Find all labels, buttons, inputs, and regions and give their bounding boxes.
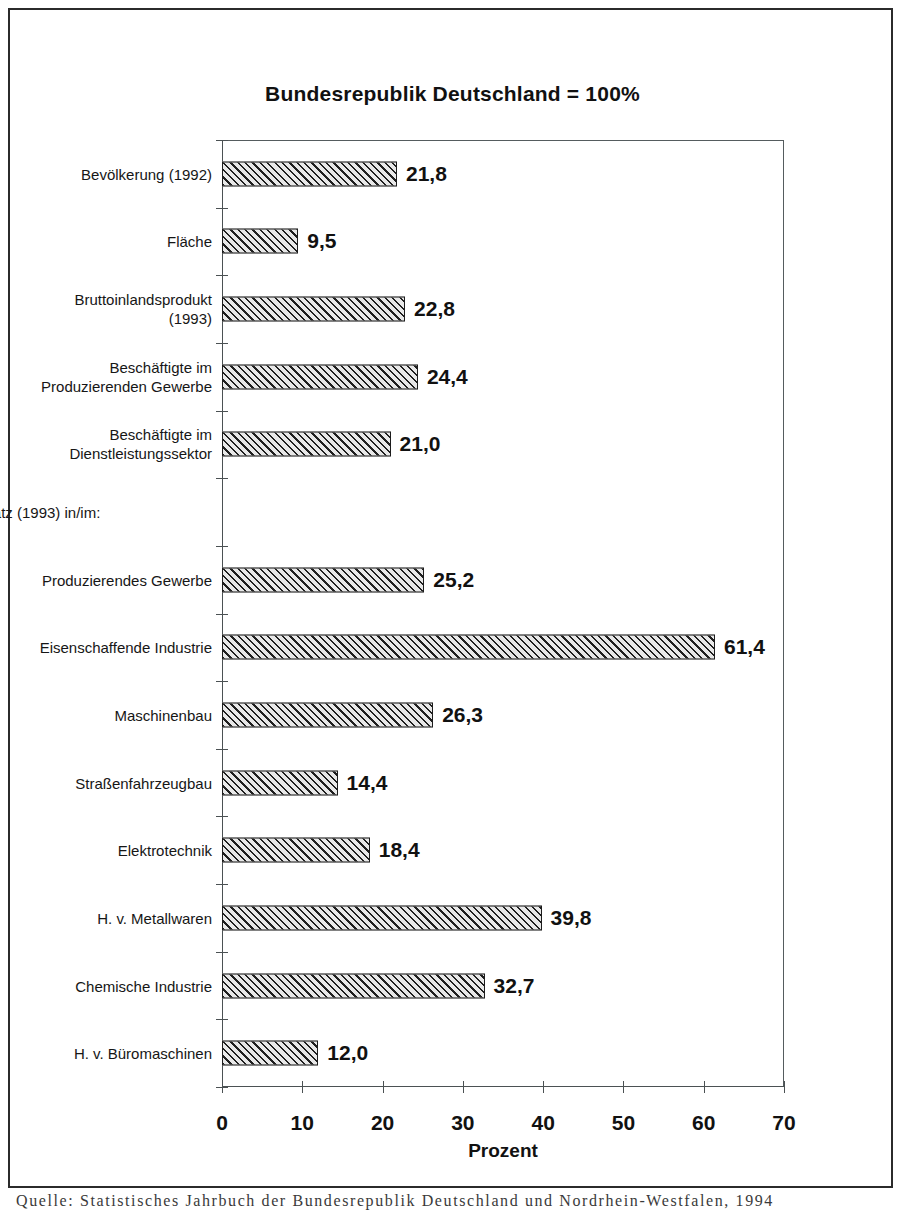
bar-value-label: 9,5 xyxy=(298,229,336,253)
bar xyxy=(222,297,405,322)
x-axis-tick xyxy=(302,1081,303,1093)
y-axis-tick xyxy=(216,884,228,885)
bar xyxy=(222,567,424,592)
bar-row: Produzierendes Gewerbe25,2 xyxy=(222,546,784,614)
bar xyxy=(222,1041,318,1066)
x-axis-title: Prozent xyxy=(222,1140,784,1162)
bar-value-label: 26,3 xyxy=(433,703,483,727)
category-label: Eisenschaffende Industrie xyxy=(0,638,212,657)
bar-value-label: 22,8 xyxy=(405,297,455,321)
bar xyxy=(222,702,433,727)
bar-row: H. v. Metallwaren39,8 xyxy=(222,884,784,952)
category-label: Bevölkerung (1992) xyxy=(0,164,212,183)
plot-area: Bevölkerung (1992)21,8Fläche9,5Bruttoinl… xyxy=(222,140,784,1087)
category-label: Bruttoinlandsprodukt (1993) xyxy=(0,290,212,328)
y-axis-tick xyxy=(216,952,228,953)
category-label: Produzierendes Gewerbe xyxy=(0,570,212,589)
chart-title: Bundesrepublik Deutschland = 100% xyxy=(10,82,895,106)
x-axis-tick xyxy=(383,1081,384,1093)
y-axis-tick xyxy=(216,275,228,276)
y-axis-tick xyxy=(216,343,228,344)
category-label: H. v. Büromaschinen xyxy=(0,1044,212,1063)
category-group-heading: Umsatz (1993) in/im: xyxy=(0,503,212,522)
x-axis-tick xyxy=(543,1081,544,1093)
x-axis-tick-label: 30 xyxy=(433,1111,493,1135)
bar-value-label: 18,4 xyxy=(370,838,420,862)
category-label: Chemische Industrie xyxy=(0,976,212,995)
bar-row: Straßenfahrzeugbau14,4 xyxy=(222,749,784,817)
y-axis-tick xyxy=(216,614,228,615)
bar-row: Beschäftigte im Produzierenden Gewerbe24… xyxy=(222,343,784,411)
y-axis-tick xyxy=(216,478,228,479)
x-axis-tick-label: 0 xyxy=(192,1111,252,1135)
bar xyxy=(222,364,418,389)
x-axis-tick xyxy=(222,1081,223,1093)
y-axis-tick xyxy=(216,140,228,141)
bar-value-label: 25,2 xyxy=(424,568,474,592)
x-axis-tick-label: 10 xyxy=(272,1111,332,1135)
bar-row: Beschäftigte im Dienstleistungssektor21,… xyxy=(222,411,784,479)
y-axis-tick xyxy=(216,208,228,209)
y-axis-tick xyxy=(216,816,228,817)
x-axis-tick-label: 40 xyxy=(513,1111,573,1135)
bar-value-label: 21,0 xyxy=(391,432,441,456)
bar-row: Maschinenbau26,3 xyxy=(222,681,784,749)
category-label: Elektrotechnik xyxy=(0,841,212,860)
category-label: Maschinenbau xyxy=(0,705,212,724)
x-axis-tick xyxy=(784,1081,785,1093)
bar-row: Fläche9,5 xyxy=(222,208,784,276)
category-label: Beschäftigte im Dienstleistungssektor xyxy=(0,425,212,463)
bar xyxy=(222,229,298,254)
bar-row: Chemische Industrie32,7 xyxy=(222,952,784,1020)
bar-value-label: 32,7 xyxy=(485,974,535,998)
y-axis-tick xyxy=(216,681,228,682)
bar-value-label: 39,8 xyxy=(542,906,592,930)
bar xyxy=(222,161,397,186)
bar-value-label: 21,8 xyxy=(397,162,447,186)
y-axis-tick xyxy=(216,411,228,412)
x-axis-tick xyxy=(463,1081,464,1093)
x-axis-tick-label: 70 xyxy=(754,1111,814,1135)
bar-row: Bevölkerung (1992)21,8 xyxy=(222,140,784,208)
bar xyxy=(222,905,542,930)
x-axis-tick-label: 50 xyxy=(593,1111,653,1135)
category-label: Fläche xyxy=(0,232,212,251)
bar-row: H. v. Büromaschinen12,0 xyxy=(222,1019,784,1087)
x-axis-tick-label: 20 xyxy=(353,1111,413,1135)
category-label: H. v. Metallwaren xyxy=(0,908,212,927)
category-label: Straßenfahrzeugbau xyxy=(0,773,212,792)
bar-value-label: 12,0 xyxy=(318,1041,368,1065)
bar-value-label: 24,4 xyxy=(418,365,468,389)
x-axis-tick xyxy=(623,1081,624,1093)
bar xyxy=(222,432,391,457)
y-axis-tick xyxy=(216,546,228,547)
bar xyxy=(222,973,485,998)
bar xyxy=(222,635,715,660)
y-axis-tick xyxy=(216,1019,228,1020)
category-label: Beschäftigte im Produzierenden Gewerbe xyxy=(0,358,212,396)
bar-value-label: 61,4 xyxy=(715,635,765,659)
bar xyxy=(222,838,370,863)
x-axis-tick-label: 60 xyxy=(674,1111,734,1135)
x-axis-tick xyxy=(704,1081,705,1093)
bar-row: Eisenschaffende Industrie61,4 xyxy=(222,614,784,682)
y-axis-tick xyxy=(216,749,228,750)
bar-value-label: 14,4 xyxy=(338,771,388,795)
figure-frame: Bundesrepublik Deutschland = 100% Bevölk… xyxy=(8,8,893,1188)
bar xyxy=(222,770,338,795)
source-note: Quelle: Statistisches Jahrbuch der Bunde… xyxy=(16,1192,886,1210)
bar-row: Elektrotechnik18,4 xyxy=(222,816,784,884)
bar-row: Umsatz (1993) in/im: xyxy=(222,478,784,546)
bar-row: Bruttoinlandsprodukt (1993)22,8 xyxy=(222,275,784,343)
